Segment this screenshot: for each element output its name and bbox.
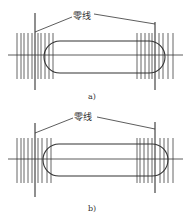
caption-a: a) bbox=[88, 92, 96, 102]
leader-line bbox=[35, 17, 72, 32]
panel-b-drawing bbox=[8, 117, 183, 197]
zero-line-label-b: 零线 bbox=[74, 112, 92, 122]
slot-outline bbox=[43, 144, 168, 176]
zero-line-label-a: 零线 bbox=[73, 11, 91, 21]
panel-a-drawing bbox=[8, 13, 183, 90]
slot-outline bbox=[44, 41, 165, 73]
diagram-canvas bbox=[0, 0, 190, 220]
leader-line bbox=[35, 118, 73, 133]
leader-line bbox=[94, 14, 155, 24]
caption-b: b) bbox=[88, 204, 96, 214]
leader-line bbox=[97, 117, 155, 129]
